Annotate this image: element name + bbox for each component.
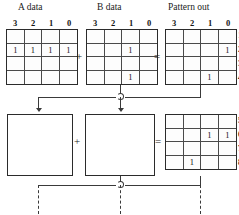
col-header-1: 1	[42, 18, 60, 29]
box-a-data-bottom	[7, 114, 73, 176]
wire-out-bottom-drop	[200, 176, 201, 185]
cell	[219, 30, 237, 44]
cell	[7, 30, 25, 44]
cell	[184, 30, 202, 44]
cell: 1	[184, 156, 202, 170]
wire-out-drop	[200, 85, 201, 97]
cell	[87, 30, 105, 44]
figure-canvas: A data B data Pattern out 3 2 1 0 3 2 1 …	[0, 0, 239, 215]
row-number: 1	[237, 29, 239, 43]
cell	[166, 142, 184, 156]
col-header-1: 1	[201, 18, 219, 29]
cell	[105, 71, 123, 85]
cell	[42, 71, 60, 85]
row-number: 7	[237, 142, 239, 156]
cell	[201, 30, 219, 44]
cell	[166, 71, 184, 85]
cell	[42, 30, 60, 44]
cell: 1	[201, 71, 219, 85]
plus-operator-top: +	[76, 51, 82, 62]
cell	[219, 57, 237, 71]
cell	[166, 30, 184, 44]
cell	[42, 57, 60, 71]
column-headers-b-data: 3 2 1 0	[86, 18, 158, 29]
grid-b-data-top: 1 1	[86, 29, 158, 85]
cell	[87, 71, 105, 85]
cell	[184, 142, 202, 156]
cell	[60, 71, 78, 85]
cell	[166, 156, 184, 170]
cell	[166, 115, 184, 129]
cell	[25, 71, 43, 85]
cell: 1	[201, 129, 219, 143]
cell	[25, 30, 43, 44]
cell: 1	[25, 44, 43, 58]
cell	[60, 57, 78, 71]
column-title-pattern-out: Pattern out	[168, 2, 209, 13]
equals-operator-top: =	[154, 51, 160, 62]
row-number: 5	[237, 114, 239, 128]
cell	[201, 57, 219, 71]
cell	[166, 129, 184, 143]
grid-a-data-top: 1 1 1 1	[6, 29, 78, 85]
dashed-continuation-out	[200, 185, 201, 214]
cell	[7, 57, 25, 71]
cell: 1	[42, 44, 60, 58]
grid-pattern-out-bottom: 1 1 1	[165, 114, 237, 170]
row-number: 8	[237, 156, 239, 170]
row-number: 6	[237, 128, 239, 142]
cell	[219, 115, 237, 129]
cell	[184, 44, 202, 58]
col-header-0: 0	[140, 18, 158, 29]
cell	[184, 115, 202, 129]
cell	[122, 57, 140, 71]
col-header-0: 0	[60, 18, 78, 29]
cell	[60, 30, 78, 44]
col-header-3: 3	[165, 18, 183, 29]
cell	[166, 44, 184, 58]
cell	[87, 44, 105, 58]
cell	[201, 142, 219, 156]
cell	[105, 44, 123, 58]
equals-operator-bottom: =	[155, 136, 161, 147]
col-header-2: 2	[104, 18, 122, 29]
row-numbers-bottom: 5 6 7 8	[237, 114, 239, 170]
plus-operator-bottom: +	[74, 136, 80, 147]
row-number: 2	[237, 43, 239, 57]
cell	[201, 156, 219, 170]
cell	[140, 71, 158, 85]
cell: 1	[122, 44, 140, 58]
dashed-continuation-a	[38, 185, 39, 214]
row-number: 3	[237, 57, 239, 71]
arrow-down-box-b	[118, 108, 124, 112]
cell	[105, 57, 123, 71]
cell	[184, 57, 202, 71]
column-title-a-data: A data	[18, 2, 43, 13]
cell	[166, 57, 184, 71]
cell: 1	[219, 44, 237, 58]
col-header-0: 0	[219, 18, 237, 29]
row-number: 4	[237, 71, 239, 85]
cell	[201, 115, 219, 129]
column-headers-pattern-out: 3 2 1 0	[165, 18, 237, 29]
cell	[122, 30, 140, 44]
cell	[87, 57, 105, 71]
row-numbers-top: 1 2 3 4	[237, 29, 239, 85]
cell: 1	[7, 44, 25, 58]
cell	[140, 30, 158, 44]
cell: 1	[60, 44, 78, 58]
cell	[201, 44, 219, 58]
col-header-1: 1	[122, 18, 140, 29]
col-header-2: 2	[24, 18, 42, 29]
cell	[219, 156, 237, 170]
arrow-down-box-a	[36, 108, 42, 112]
col-header-2: 2	[183, 18, 201, 29]
col-header-3: 3	[86, 18, 104, 29]
grid-pattern-out-top: 1 1	[165, 29, 237, 85]
column-title-b-data: B data	[97, 2, 122, 13]
cell	[184, 129, 202, 143]
dashed-continuation-b	[120, 185, 121, 214]
cell	[184, 71, 202, 85]
box-b-data-bottom	[85, 114, 155, 176]
cell	[25, 57, 43, 71]
